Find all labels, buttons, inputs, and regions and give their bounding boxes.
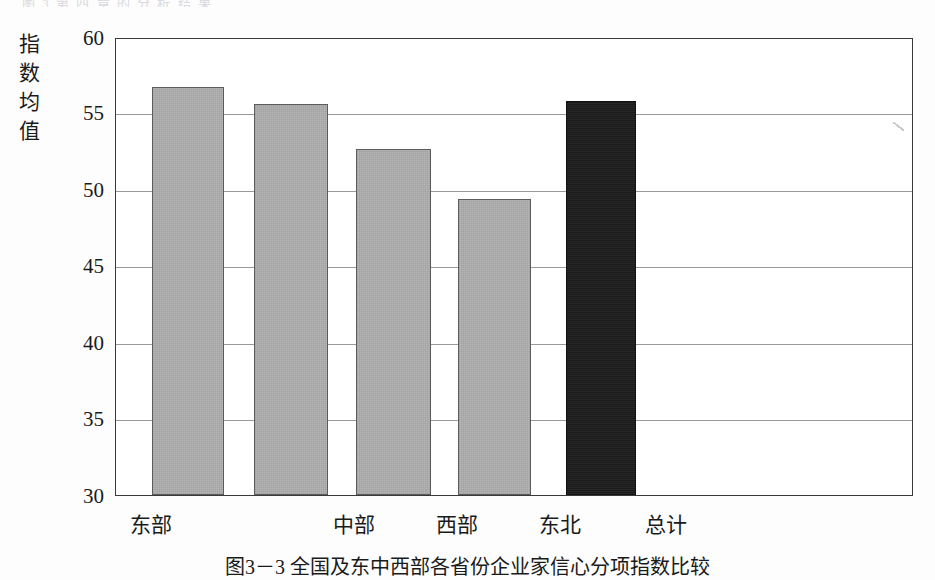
x-tick-label-dongbu: 东部 (91, 508, 211, 538)
x-tick-label-zongji: 总计 (606, 508, 726, 538)
bar-zongji[interactable] (566, 101, 636, 495)
x-tick-label-xibu: 西部 (397, 508, 517, 538)
y-tick-label-30: 30 (44, 484, 104, 509)
bar-dongbei[interactable] (458, 199, 531, 495)
y-axis-title: 指 数 均 值 (14, 30, 44, 146)
y-axis-title-char-4: 值 (14, 117, 44, 146)
y-tick-label-35: 35 (44, 407, 104, 432)
bar-dongbu[interactable] (152, 87, 224, 495)
gridline-55 (116, 114, 912, 115)
y-tick-label-45: 45 (44, 254, 104, 279)
y-axis-title-char-3: 均 (14, 88, 44, 117)
y-tick-label-55: 55 (44, 101, 104, 126)
x-tick-label-dongbei: 东北 (500, 508, 620, 538)
y-axis-title-char-2: 数 (14, 59, 44, 88)
y-axis-title-char-1: 指 (14, 30, 44, 59)
y-tick-label-50: 50 (44, 178, 104, 203)
figure-caption: 图3－3 全国及东中西部各省份企业家信心分项指数比较 (0, 551, 935, 580)
y-tick-label-60: 60 (44, 26, 104, 51)
gridline-50 (116, 191, 912, 192)
bar-zhongbu[interactable] (254, 104, 328, 495)
x-tick-label-zhongbu: 中部 (294, 508, 414, 538)
y-tick-label-40: 40 (44, 331, 104, 356)
scan-speck (893, 122, 904, 131)
chart-plot-area (115, 38, 913, 496)
bar-xibu[interactable] (356, 149, 431, 495)
page-header-cut-text: 图 3 第 四 章 的 分 析 结 果 (22, 0, 482, 7)
